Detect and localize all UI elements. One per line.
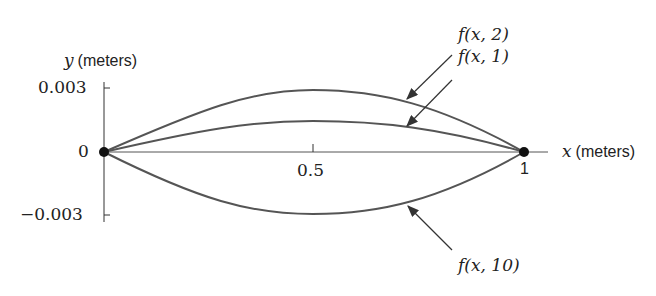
endpoint-one bbox=[519, 147, 529, 157]
y-tick-label-zero: 0 bbox=[78, 141, 89, 161]
y-axis-unit: (meters) bbox=[78, 52, 138, 69]
x-tick-label-one: 1 bbox=[520, 160, 529, 178]
y-tick-label-neg: −0.003 bbox=[20, 204, 83, 224]
arrow-f-x-10 bbox=[408, 206, 452, 250]
y-axis-label: y (meters) bbox=[64, 50, 137, 70]
x-axis-unit: (meters) bbox=[576, 143, 636, 160]
plot-canvas bbox=[0, 0, 656, 296]
annotation-f-x-1: f(x, 1) bbox=[458, 46, 509, 66]
x-tick-label-half: 0.5 bbox=[297, 160, 324, 180]
y-tick-label-pos: 0.003 bbox=[38, 77, 87, 97]
arrow-f-x-2 bbox=[407, 55, 452, 99]
annotation-f-x-2: f(x, 2) bbox=[458, 24, 509, 44]
y-axis-var: y bbox=[64, 50, 74, 70]
x-axis-label: x (meters) bbox=[562, 141, 635, 161]
x-axis-var: x bbox=[562, 141, 572, 161]
endpoint-origin bbox=[99, 147, 109, 157]
chart-figure: y (meters) 0.003 0 −0.003 0.5 1 x (meter… bbox=[0, 0, 656, 296]
annotation-f-x-10: f(x, 10) bbox=[458, 255, 520, 275]
